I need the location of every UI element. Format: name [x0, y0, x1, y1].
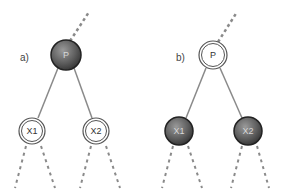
- node-label: P: [63, 50, 69, 60]
- panel-label-a: a): [20, 52, 29, 63]
- dashed-edge-x1-right: [188, 146, 202, 188]
- dashed-edge-x2-left: [80, 146, 91, 188]
- panel-a: a) P X1 X2: [15, 12, 120, 188]
- node-x1-filled: X1: [165, 117, 193, 145]
- panel-b: b) P X1 X2: [162, 12, 269, 188]
- edge-p-x1: [38, 68, 58, 118]
- node-p-filled: P: [51, 40, 81, 70]
- dashed-edge-parent-in: [70, 12, 89, 41]
- edge-p-x1: [186, 68, 206, 118]
- diagram-canvas: a) P X1 X2 b): [0, 0, 283, 195]
- dashed-edge-x1-left: [15, 146, 26, 188]
- node-label: X2: [242, 126, 253, 136]
- node-label: X2: [90, 126, 101, 136]
- panel-label-b: b): [176, 52, 185, 63]
- node-p-hollow: P: [199, 41, 227, 69]
- dashed-edge-parent-in: [218, 12, 237, 42]
- dashed-edge-x1-right: [41, 146, 55, 188]
- node-label: P: [210, 50, 216, 60]
- edge-p-x2: [74, 68, 92, 118]
- edge-p-x2: [220, 68, 242, 118]
- tree-diagram: a) P X1 X2 b): [0, 0, 283, 195]
- dashed-edge-x1-left: [162, 146, 173, 188]
- dashed-edge-x2-left: [231, 146, 242, 188]
- node-x2-hollow: X2: [83, 118, 109, 144]
- node-label: X1: [26, 126, 37, 136]
- node-label: X1: [173, 126, 184, 136]
- dashed-edge-x2-right: [106, 146, 120, 188]
- dashed-edge-x2-right: [257, 146, 269, 188]
- node-x2-filled: X2: [234, 117, 262, 145]
- node-x1-hollow: X1: [19, 118, 45, 144]
